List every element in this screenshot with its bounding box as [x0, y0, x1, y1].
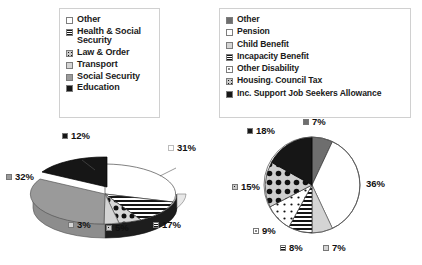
- legend-label-child-benefit: Child Benefit: [237, 40, 289, 49]
- legend-label-income-support-jsa: Inc. Support Job Seekers Allowance: [237, 89, 381, 98]
- legend-swatch-other: [66, 17, 73, 24]
- data-label-social-security: 32%: [6, 171, 34, 182]
- data-value-housing-council-tax: 15%: [241, 181, 260, 192]
- legend-swatch-income-support-jsa: [226, 91, 233, 98]
- legend-label-other-disability: Other Disability: [237, 64, 299, 73]
- data-value-income-support-jsa: 18%: [256, 125, 275, 136]
- data-value-other-disability: 9%: [262, 225, 276, 236]
- legend-item: Pension: [226, 27, 405, 36]
- data-value-pension: 36%: [366, 178, 385, 189]
- legend-label-health-social-security: Health & Social Security: [77, 27, 154, 46]
- legend-item: Transport: [66, 60, 154, 70]
- legend-item: Other Disability: [226, 64, 405, 73]
- data-swatch-other-disability: [253, 228, 259, 234]
- data-label-child-benefit: 7%: [323, 242, 346, 253]
- data-value-health-social-security: 17%: [162, 219, 181, 230]
- legend-label-pension: Pension: [237, 27, 270, 36]
- data-swatch-education: [62, 133, 68, 139]
- chart-panel-benefits-spending: Other Pension Child Benefit Incapacity B…: [211, 0, 422, 265]
- data-value-child-benefit: 7%: [332, 242, 346, 253]
- legend-item: Other: [226, 15, 405, 24]
- legend-swatch-housing-council-tax: [226, 78, 233, 85]
- data-swatch-housing-council-tax: [232, 184, 238, 190]
- legend-label-transport: Transport: [77, 60, 118, 70]
- data-swatch-transport: [68, 222, 74, 228]
- data-swatch-law-order: [106, 225, 112, 231]
- legend-label-law-order: Law & Order: [77, 48, 129, 58]
- legend-label-housing-council-tax: Housing. Council Tax: [237, 76, 322, 85]
- legend-swatch-health-social-security: [66, 29, 73, 36]
- legend-item: Health & Social Security: [66, 27, 154, 46]
- legend-swatch-other: [226, 17, 233, 24]
- data-value-social-security: 32%: [15, 171, 34, 182]
- data-label-other: 31%: [168, 142, 196, 153]
- data-value-other: 31%: [177, 142, 196, 153]
- legend-swatch-child-benefit: [226, 42, 233, 49]
- data-value-other: 7%: [312, 116, 326, 127]
- data-swatch-incapacity-benefit: [280, 245, 286, 251]
- data-label-housing-council-tax: 15%: [232, 181, 260, 192]
- legend-swatch-transport: [66, 62, 73, 69]
- pie-chart-benefits-spending: 7% 36% 7% 8% 9% 15% 18%: [211, 124, 422, 265]
- legend-item: Social Security: [66, 72, 154, 82]
- legend-item: Housing. Council Tax: [226, 76, 405, 85]
- data-swatch-social-security: [6, 174, 12, 180]
- pie-svg-benefits-spending: [211, 124, 422, 265]
- legend-swatch-law-order: [66, 50, 73, 57]
- legend-swatch-pension: [226, 29, 233, 36]
- legend-label-other: Other: [77, 15, 101, 25]
- legend-swatch-other-disability: [226, 66, 233, 73]
- legend-swatch-incapacity-benefit: [226, 54, 233, 61]
- legend-swatch-education: [66, 85, 73, 92]
- legend-swatch-social-security: [66, 74, 73, 81]
- data-label-pension: 36%: [366, 178, 385, 189]
- legend-item: Education: [66, 83, 154, 93]
- pie-chart-government-spending: 12% 31% 17% 5% 3% 32%: [0, 124, 211, 265]
- legend-benefits-spending: Other Pension Child Benefit Incapacity B…: [219, 8, 411, 118]
- chart-panel-government-spending: Other Health & Social Security Law & Ord…: [0, 0, 211, 265]
- data-swatch-child-benefit: [323, 245, 329, 251]
- data-label-income-support-jsa: 18%: [247, 125, 275, 136]
- data-swatch-other: [303, 119, 309, 125]
- legend-label-other: Other: [237, 15, 259, 24]
- data-swatch-income-support-jsa: [247, 128, 253, 134]
- data-label-education: 12%: [62, 130, 90, 141]
- data-label-other: 7%: [303, 116, 326, 127]
- legend-item: Child Benefit: [226, 40, 405, 49]
- data-swatch-health-social-security: [153, 222, 159, 228]
- data-label-law-order: 5%: [106, 222, 129, 233]
- legend-item: Incapacity Benefit: [226, 52, 405, 61]
- data-label-other-disability: 9%: [253, 225, 276, 236]
- data-label-transport: 3%: [68, 219, 91, 230]
- data-value-education: 12%: [71, 130, 90, 141]
- legend-item: Other: [66, 15, 154, 25]
- legend-label-incapacity-benefit: Incapacity Benefit: [237, 52, 309, 61]
- data-value-incapacity-benefit: 8%: [289, 242, 303, 253]
- data-value-law-order: 5%: [115, 222, 129, 233]
- data-label-health-social-security: 17%: [153, 219, 181, 230]
- data-value-transport: 3%: [77, 219, 91, 230]
- legend-label-education: Education: [77, 83, 120, 93]
- legend-government-spending: Other Health & Social Security Law & Ord…: [59, 8, 160, 118]
- legend-item: Law & Order: [66, 48, 154, 58]
- legend-item: Inc. Support Job Seekers Allowance: [226, 89, 405, 98]
- data-swatch-other: [168, 145, 174, 151]
- legend-label-social-security: Social Security: [77, 72, 140, 82]
- data-label-incapacity-benefit: 8%: [280, 242, 303, 253]
